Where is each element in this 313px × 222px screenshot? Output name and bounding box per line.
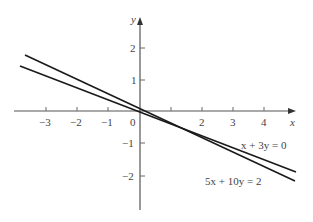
y-tick-label: 1 <box>131 74 137 86</box>
line-5x-10y-2 <box>25 55 295 181</box>
y-tick-label: −1 <box>122 137 134 149</box>
equation-label-1: x + 3y = 0 <box>241 139 287 151</box>
y-axis-arrow-icon <box>137 17 143 25</box>
y-tick-label: −2 <box>122 170 134 182</box>
x-tick-label: −2 <box>70 116 82 128</box>
x-tick-label: 4 <box>261 116 267 128</box>
graph: −3 −2 −1 0 2 3 4 x 2 1 −1 −2 y x + 3y = … <box>0 0 313 222</box>
line-x-3y-0 <box>20 66 296 172</box>
equation-label-2: 5x + 10y = 2 <box>205 175 261 187</box>
x-tick-label: 3 <box>230 116 236 128</box>
x-axis-arrow-icon <box>288 108 296 114</box>
x-tick-label: −1 <box>101 116 113 128</box>
y-axis-label: y <box>130 13 136 25</box>
x-tick-label: −3 <box>39 116 51 128</box>
x-axis-label: x <box>289 116 295 128</box>
y-tick-label: 2 <box>130 42 136 54</box>
origin-label: 0 <box>130 116 136 128</box>
x-tick-label: 2 <box>199 116 205 128</box>
